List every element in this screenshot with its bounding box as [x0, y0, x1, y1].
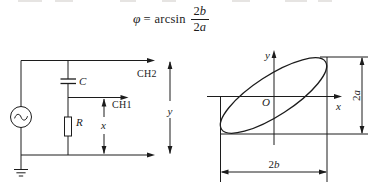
height-dim-label: 2a	[350, 90, 362, 102]
capacitor-label: C	[79, 75, 87, 87]
ground-symbol	[14, 155, 28, 176]
width-dim-label: 2b	[269, 158, 281, 170]
capacitor	[61, 79, 77, 84]
resistor	[65, 117, 72, 136]
axes	[207, 50, 342, 145]
width-dimension-2b	[221, 170, 328, 175]
x-axis-label: x	[335, 100, 341, 112]
ch1-label: CH1	[112, 99, 132, 110]
y-axis-label: y	[264, 49, 270, 61]
y-dim-label: y	[167, 105, 173, 117]
x-dim-label: x	[100, 119, 106, 131]
rc-circuit: C R CH2 CH1 x y	[11, 58, 173, 176]
resistor-label: R	[75, 116, 83, 128]
sine-wave-icon	[15, 114, 28, 120]
ch2-label: CH2	[137, 68, 157, 79]
extension-lines	[221, 57, 369, 182]
origin-label: O	[262, 96, 270, 108]
figure-canvas: C R CH2 CH1 x y y	[0, 0, 378, 193]
ac-source	[11, 107, 32, 128]
lissajous-diagram: y x O 2a 2b	[207, 45, 368, 182]
